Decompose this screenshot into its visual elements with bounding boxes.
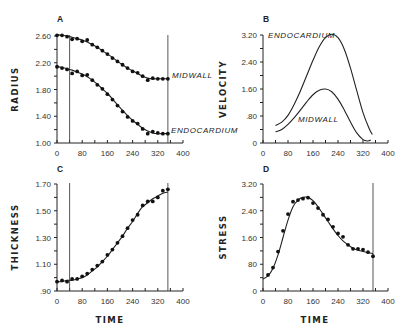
data-point (90, 268, 94, 272)
data-point (151, 199, 155, 203)
series-label: ENDOCARDIUM (171, 126, 238, 135)
data-point (156, 131, 160, 135)
data-point (156, 195, 160, 199)
panel-letter: A (57, 14, 63, 24)
data-point (166, 132, 170, 136)
data-point (95, 264, 99, 268)
data-point (90, 43, 94, 47)
chart-panel-c: C080160240320400.901.101.301.501.70THICK… (10, 164, 190, 325)
data-point (321, 213, 325, 217)
y-tick-label: 1.40 (35, 112, 51, 121)
data-point (131, 70, 135, 74)
data-point (70, 72, 74, 76)
x-tick-label: 0 (261, 149, 266, 158)
x-axis-label: TIME (300, 315, 329, 325)
data-point (336, 232, 340, 236)
series-label: MIDWALL (172, 71, 213, 80)
y-tick-label: 0 (253, 287, 258, 296)
x-tick-label: 160 (306, 297, 320, 306)
panel-letter: C (57, 164, 63, 174)
data-point (291, 200, 295, 204)
y-tick-label: 3.20 (241, 180, 257, 189)
y-tick-label: 3.20 (241, 31, 257, 40)
data-point (80, 274, 84, 278)
data-point (141, 74, 145, 78)
data-point (161, 77, 165, 81)
data-point (286, 212, 290, 216)
data-point (131, 218, 135, 222)
data-point (80, 39, 84, 43)
data-point (55, 65, 59, 69)
data-point (60, 66, 64, 70)
y-tick-label: 1.00 (35, 139, 51, 148)
data-point (136, 122, 140, 126)
data-point (65, 280, 69, 284)
data-point (151, 76, 155, 80)
data-point (136, 213, 140, 217)
x-tick-label: 240 (331, 149, 345, 158)
x-tick-label: 400 (176, 149, 190, 158)
x-tick-label: 400 (176, 297, 190, 306)
data-point (75, 70, 79, 74)
data-point (85, 272, 89, 276)
data-point (116, 60, 120, 64)
y-axis-label: VELOCITY (218, 60, 228, 118)
x-tick-label: 320 (356, 297, 370, 306)
y-axis-label: RADIUS (10, 66, 20, 111)
x-tick-label: 160 (306, 149, 320, 158)
data-point (141, 204, 145, 208)
x-tick-label: 240 (126, 297, 140, 306)
data-point (301, 197, 305, 201)
data-point (146, 199, 150, 203)
data-point (146, 132, 150, 136)
y-tick-label: 1.10 (35, 260, 51, 269)
data-point (65, 35, 69, 39)
data-point (106, 52, 110, 56)
y-tick-label: 0 (253, 139, 258, 148)
data-point (116, 104, 120, 108)
x-tick-label: 0 (261, 297, 266, 306)
data-point (131, 119, 135, 123)
data-point (146, 78, 150, 82)
fit-line (57, 192, 168, 282)
data-point (90, 78, 94, 82)
series-stress (263, 196, 375, 279)
data-point (331, 225, 335, 229)
y-tick-label: 1.30 (35, 234, 51, 243)
y-tick-label: .90 (40, 287, 52, 296)
x-tick-label: 0 (55, 297, 60, 306)
data-point (100, 87, 104, 91)
x-tick-label: 320 (356, 149, 370, 158)
data-point (161, 132, 165, 136)
y-tick-label: 2.40 (241, 207, 257, 216)
x-tick-label: 160 (101, 297, 115, 306)
data-point (70, 277, 74, 281)
data-point (371, 254, 375, 258)
data-point (85, 73, 89, 77)
data-point (316, 206, 320, 210)
data-point (111, 56, 115, 60)
data-point (95, 83, 99, 87)
panel-letter: D (263, 164, 269, 174)
data-point (341, 235, 345, 239)
y-tick-label: 80 (248, 260, 257, 269)
data-point (151, 130, 155, 134)
data-point (126, 115, 130, 119)
data-point (106, 92, 110, 96)
y-tick-label: 1.80 (35, 86, 51, 95)
x-tick-label: 240 (126, 149, 140, 158)
data-point (166, 77, 170, 81)
chart-panel-a: A0801602403204001.001.401.802.202.60RADI… (10, 14, 238, 158)
data-point (95, 45, 99, 49)
data-point (121, 63, 125, 67)
series-thickness (55, 187, 170, 283)
data-point (60, 278, 64, 282)
x-tick-label: 240 (331, 297, 345, 306)
y-tick-label: 1.50 (35, 207, 51, 216)
data-point (85, 38, 89, 42)
data-point (100, 260, 104, 264)
y-tick-label: 1.60 (241, 234, 257, 243)
chart-panel-b: B0801602403204000.801.602.403.20VELOCITY… (218, 14, 395, 158)
y-tick-label: 1.70 (35, 180, 51, 189)
data-point (65, 68, 69, 72)
